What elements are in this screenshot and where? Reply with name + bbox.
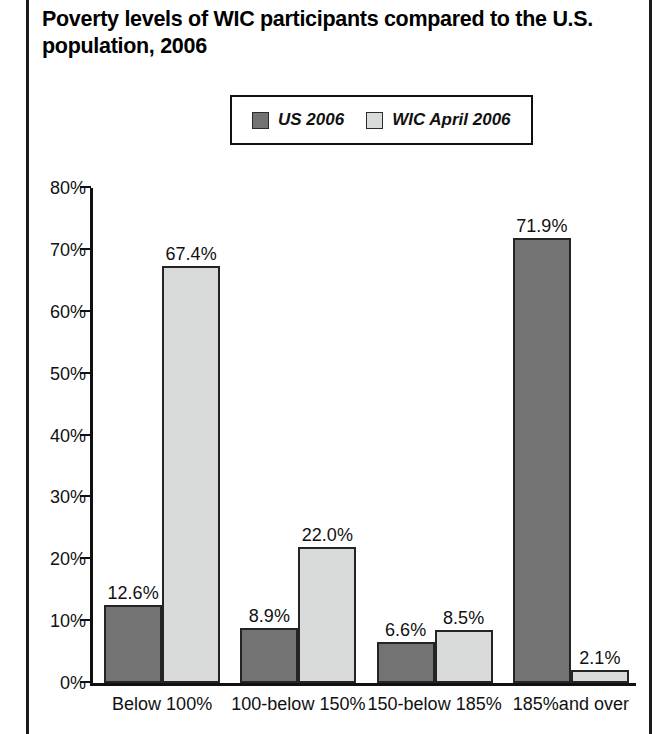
bar-us-2006-1: 8.9% (240, 628, 298, 683)
x-axis-line (90, 683, 636, 686)
column-rule-right (649, 0, 652, 734)
legend-swatch-wic-april-2006 (366, 112, 383, 129)
bar-wic-april-2006-2: 8.5% (435, 630, 493, 683)
bar-value-label: 8.9% (249, 606, 290, 627)
bar-us-2006-3: 71.9% (513, 238, 571, 683)
legend-swatch-us-2006 (252, 112, 269, 129)
bar-wic-april-2006-1: 22.0% (298, 547, 356, 683)
chart-legend: US 2006 WIC April 2006 (230, 95, 533, 145)
bar-value-label: 2.1% (579, 648, 620, 669)
bar-wic-april-2006-0: 67.4% (162, 266, 220, 683)
bar-value-label: 22.0% (302, 525, 353, 546)
category-label-2: 150-below 185% (368, 694, 502, 715)
y-tick-label: 20% (50, 549, 86, 570)
bar-value-label: 6.6% (385, 620, 426, 641)
y-tick-label: 50% (50, 364, 86, 385)
y-tick-label: 10% (50, 611, 86, 632)
bar-value-label: 12.6% (108, 583, 159, 604)
y-axis-line (90, 188, 93, 683)
y-tick-label: 40% (50, 426, 86, 447)
bar-value-label: 67.4% (166, 244, 217, 265)
y-tick-label: 70% (50, 240, 86, 261)
legend-item-us-2006: US 2006 (252, 110, 344, 130)
legend-item-wic-april-2006: WIC April 2006 (366, 110, 510, 130)
bar-us-2006-2: 6.6% (377, 642, 435, 683)
legend-label-wic-april-2006: WIC April 2006 (392, 110, 510, 130)
bar-us-2006-0: 12.6% (104, 605, 162, 683)
chart-figure: Poverty levels of WIC participants compa… (0, 0, 666, 734)
category-label-0: Below 100% (112, 694, 212, 715)
bar-value-label: 71.9% (516, 216, 567, 237)
y-tick-label: 80% (50, 178, 86, 199)
bar-wic-april-2006-3: 2.1% (571, 670, 629, 683)
category-label-1: 100-below 150% (231, 694, 365, 715)
column-rule-left (26, 0, 29, 734)
y-tick-label: 0% (60, 673, 86, 694)
y-tick-label: 60% (50, 302, 86, 323)
legend-label-us-2006: US 2006 (278, 110, 344, 130)
plot-area: 0%10%20%30%40%50%60%70%80% 12.6%67.4%8.9… (92, 188, 637, 683)
chart-title: Poverty levels of WIC participants compa… (42, 6, 622, 60)
category-label-3: 185%and over (513, 694, 629, 715)
bar-value-label: 8.5% (443, 608, 484, 629)
y-tick-label: 30% (50, 487, 86, 508)
